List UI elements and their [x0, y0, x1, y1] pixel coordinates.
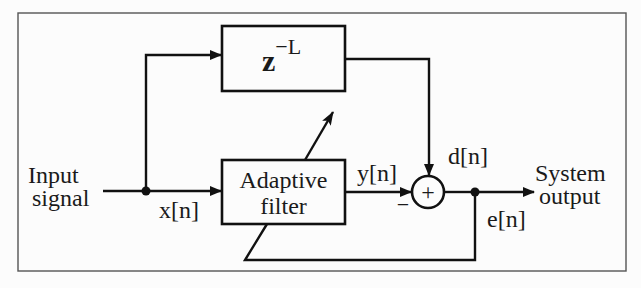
d-signal-label: d[n] [448, 143, 488, 169]
delay-label-exponent: −L [275, 34, 301, 59]
adaptive-filter-label-line2: filter [260, 193, 307, 219]
delay-label: z−L [262, 34, 301, 77]
delay-to-summer-arrow [345, 59, 429, 175]
adaptation-arrow [305, 112, 333, 160]
y-signal-label: y[n] [357, 160, 397, 186]
x-signal-label: x[n] [159, 197, 199, 223]
system-output-label-line2: output [539, 183, 601, 209]
summer-plus: + [421, 179, 435, 205]
adaptive-filter-label-line1: Adaptive [240, 167, 328, 193]
summer-minus-sign: − [397, 192, 409, 217]
adaptive-filter-diagram: z−L Adaptive filter + − Input signal x[n… [0, 0, 641, 288]
input-signal-label-line2: signal [32, 185, 90, 211]
e-signal-label: e[n] [487, 206, 526, 232]
diagram-frame [18, 13, 626, 271]
x-to-delay-arrow [146, 55, 221, 191]
delay-label-base: z [262, 44, 275, 77]
